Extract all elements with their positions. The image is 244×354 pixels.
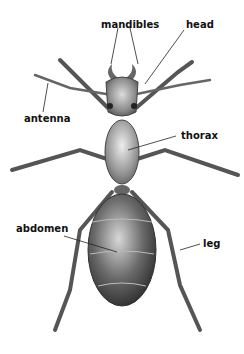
head-shape (106, 77, 138, 116)
label-antenna: antenna (24, 114, 70, 124)
ant-anatomy-diagram: mandibles head antenna thorax abdomen le… (0, 0, 244, 354)
label-head: head (186, 20, 214, 30)
label-mandibles: mandibles (101, 20, 159, 30)
label-thorax: thorax (181, 131, 218, 141)
thorax-shape (105, 120, 139, 184)
label-leg: leg (203, 239, 220, 249)
abdomen-shape (88, 194, 156, 306)
ant-illustration (0, 0, 244, 354)
label-abdomen: abdomen (16, 224, 68, 234)
